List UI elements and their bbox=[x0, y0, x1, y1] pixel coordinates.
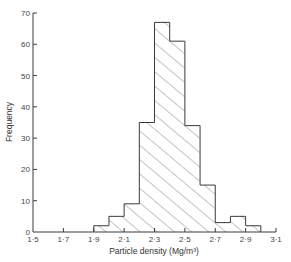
histogram-chart: 010203040506070 1·51·71·92·12·32·52·72·9… bbox=[0, 0, 291, 262]
histogram-bar bbox=[155, 22, 170, 232]
x-tick-label: 1·9 bbox=[88, 235, 100, 244]
histogram-bar bbox=[230, 216, 245, 232]
histogram-bar bbox=[124, 204, 139, 232]
y-tick-label: 40 bbox=[21, 103, 30, 112]
y-tick-label: 10 bbox=[21, 197, 30, 206]
histogram-bar bbox=[94, 226, 109, 232]
y-tick-label: 60 bbox=[21, 40, 30, 49]
x-tick-label: 2·3 bbox=[149, 235, 161, 244]
x-tick-label: 2·9 bbox=[240, 235, 252, 244]
y-tick-label: 50 bbox=[21, 72, 30, 81]
x-tick-label: 1·5 bbox=[27, 235, 39, 244]
x-tick-label: 2·7 bbox=[209, 235, 221, 244]
y-axis-label: Frequency bbox=[4, 101, 14, 142]
histogram-bar bbox=[246, 226, 261, 232]
y-tick-label: 20 bbox=[21, 165, 30, 174]
histogram-bars bbox=[94, 22, 261, 232]
x-tick-label: 3·1 bbox=[270, 235, 282, 244]
y-axis-ticks: 010203040506070 bbox=[21, 9, 37, 237]
histogram-bar bbox=[139, 123, 154, 233]
y-tick-label: 70 bbox=[21, 9, 30, 18]
x-tick-label: 2·5 bbox=[179, 235, 191, 244]
histogram-bar bbox=[109, 216, 124, 232]
histogram-bar bbox=[200, 185, 215, 232]
x-tick-label: 2·1 bbox=[118, 235, 130, 244]
y-tick-label: 30 bbox=[21, 134, 30, 143]
histogram-bar bbox=[170, 41, 185, 232]
x-axis-label: Particle density (Mg/m³) bbox=[109, 246, 199, 256]
histogram-bar bbox=[185, 126, 200, 232]
histogram-bar bbox=[215, 223, 230, 232]
x-tick-label: 1·7 bbox=[58, 235, 70, 244]
